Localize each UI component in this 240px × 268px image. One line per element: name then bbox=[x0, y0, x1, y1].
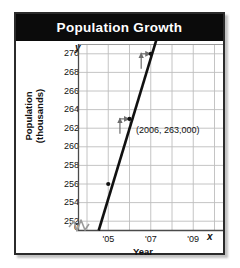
data-point-marker bbox=[149, 52, 153, 56]
slope-triangle-group bbox=[120, 53, 151, 134]
data-point-annotation: (2006, 263,000) bbox=[136, 125, 200, 135]
figure-card: Population Growth Population (thousands)… bbox=[14, 12, 225, 255]
gridlines bbox=[79, 45, 224, 231]
plot-region: Population (thousands) Year y x 27026826… bbox=[16, 41, 223, 253]
data-point-marker bbox=[106, 182, 110, 186]
chart-title-banner: Population Growth bbox=[16, 14, 223, 41]
chart-title: Population Growth bbox=[57, 20, 183, 35]
data-point-marker bbox=[127, 117, 131, 121]
chart-canvas bbox=[16, 41, 223, 257]
